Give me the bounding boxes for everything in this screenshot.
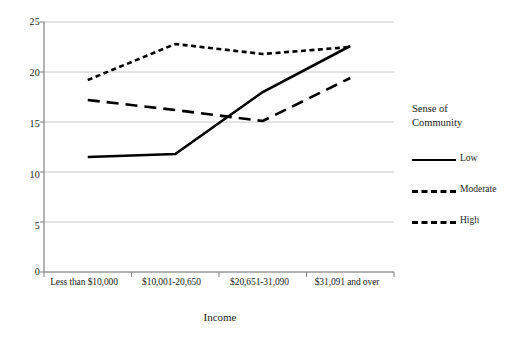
legend-swatch-low-icon <box>412 159 456 161</box>
line-chart: 25 20 15 10 5 0 Less than $10,000 $10,00… <box>0 0 506 339</box>
x-axis-title: Income <box>155 311 285 323</box>
axis-lines <box>40 22 394 272</box>
series-line-moderate <box>88 78 351 121</box>
gridlines <box>44 22 394 272</box>
legend-swatch-high-icon <box>412 221 456 224</box>
legend-label-low: Low <box>460 153 477 163</box>
plot-area <box>0 0 506 339</box>
legend-swatch-moderate-icon <box>412 190 456 193</box>
legend-title-line2: Community <box>412 116 462 129</box>
legend-label-high: High <box>460 215 479 225</box>
series-line-high <box>88 44 351 80</box>
legend-label-moderate: Moderate <box>460 184 496 194</box>
legend-title-line1: Sense of <box>412 102 448 115</box>
series-lines <box>88 44 351 157</box>
x-category-label-4: $31,091 and over <box>292 277 402 287</box>
